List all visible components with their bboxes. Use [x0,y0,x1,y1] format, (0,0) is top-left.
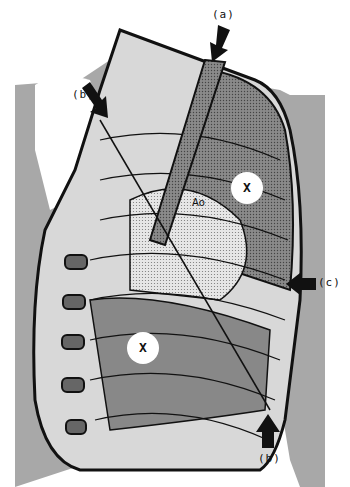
label-b-top: (b) [72,88,95,101]
label-a: (a) [212,8,235,21]
label-b-bottom: (b) [258,452,281,465]
label-aorta: Ao [192,197,205,208]
thorax-diagram [0,0,350,487]
arrow-a-icon [210,25,230,62]
label-c: (c) [318,276,341,289]
label-x-upper: X [243,180,251,195]
label-x-lower: X [139,340,147,355]
